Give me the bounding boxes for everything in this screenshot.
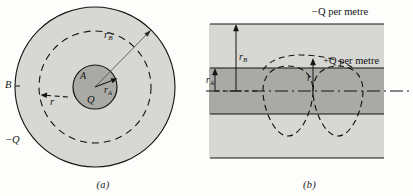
label-charge-minus-q: −Q	[6, 135, 20, 146]
label-r-b: r	[307, 73, 311, 83]
label-conductor-b: B	[5, 80, 11, 91]
label-ra-b: rA	[206, 76, 214, 86]
cross-section-diagram	[0, 0, 206, 196]
label-rb-b: rB	[239, 52, 247, 64]
label-charge-top: −Q per metre	[312, 7, 368, 18]
longitudinal-section-diagram	[206, 0, 413, 196]
caption-panel-b: (b)	[206, 179, 413, 190]
panel-longitudinal-section: −Q per metre +Q per metre rB rA r (b)	[206, 0, 413, 196]
label-ra: rA	[104, 86, 112, 96]
label-charge-mid: +Q per metre	[323, 56, 379, 67]
label-charge-q: Q	[87, 95, 95, 106]
caption-panel-a: (a)	[0, 179, 206, 190]
label-r-gauss: r	[50, 97, 54, 108]
figure-root: rB rA r A Q B −Q (a)	[0, 0, 413, 196]
panel-cross-section: rB rA r A Q B −Q (a)	[0, 0, 206, 196]
label-rb: rB	[104, 30, 113, 42]
label-conductor-a: A	[80, 71, 86, 81]
